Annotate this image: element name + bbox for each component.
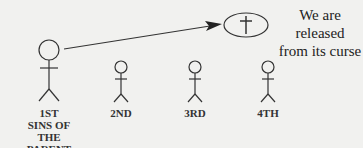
label-1st: 1ST SINS OF THE PARENT [14,107,84,148]
label-1st-line1: 1ST [14,107,84,119]
label-1st-line3: THE PARENT [14,131,84,148]
label-2nd: 2ND [101,107,141,119]
cross-icon [240,16,252,34]
release-message-line1: We are released [276,6,363,42]
label-3rd: 3RD [175,107,215,119]
stick-figure-1st [39,40,59,101]
stick-figure-2nd [114,61,128,102]
stick-figure-4th [261,61,275,102]
label-4th: 4TH [248,107,288,119]
release-message: We are released from its curse [276,6,363,60]
arrow-line [64,26,210,49]
label-1st-line2: SINS OF [14,119,84,131]
release-message-line2: from its curse [276,42,363,60]
stick-figure-3rd [188,61,202,102]
